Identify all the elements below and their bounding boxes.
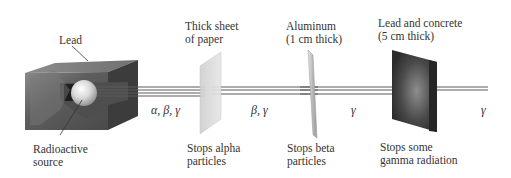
lead-pointer-line — [72, 46, 88, 61]
source-label-line1: Radioactive — [33, 143, 88, 156]
source-label-line2: source — [33, 156, 63, 169]
paper-label-line1: Thick sheet — [185, 20, 238, 33]
aluminum-label-line2: (1 cm thick) — [286, 33, 342, 46]
radiation-penetration-diagram: Lead Radioactive source Thick sheet of p… — [0, 0, 511, 178]
aluminum-effect-line2: particles — [287, 155, 326, 168]
beam-label-beta-gamma: β, γ — [251, 103, 268, 118]
paper-effect-line2: particles — [187, 155, 226, 168]
paper-label-line2: of paper — [185, 33, 223, 46]
beam-label-alpha-beta-gamma: α, β, γ — [151, 103, 180, 118]
beam-label-gamma-1: γ — [351, 103, 356, 118]
lead-concrete-label-line2: (5 cm thick) — [378, 30, 434, 43]
lead-concrete-effect-line1: Stops some — [380, 141, 433, 154]
lead-concrete-label-line1: Lead and concrete — [378, 17, 462, 30]
beam-label-gamma-2: γ — [481, 103, 486, 118]
radioactive-source-sphere — [71, 80, 97, 106]
paper-sheet — [200, 52, 221, 134]
paper-effect-line1: Stops alpha — [187, 142, 240, 155]
lead-label: Lead — [59, 34, 82, 47]
lead-concrete-effect-line2: gamma radiation — [380, 154, 458, 167]
aluminum-label-line1: Aluminum — [286, 20, 336, 33]
lead-concrete-block — [392, 50, 437, 132]
aluminum-effect-line1: Stops beta — [287, 142, 335, 155]
